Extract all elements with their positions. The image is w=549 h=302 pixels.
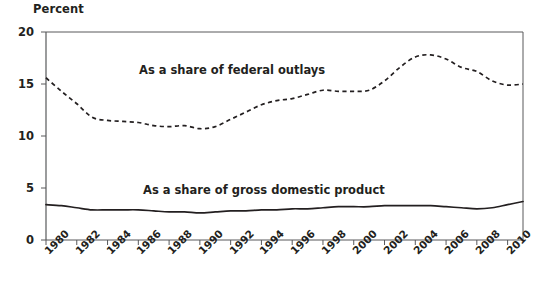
y-tick-label-10: 10 [12,129,34,143]
y-tick-label-15: 15 [12,77,34,91]
y-tick-label-5: 5 [12,181,34,195]
series-line-gdp-share [46,202,523,213]
series-annotation-federal-outlays: As a share of federal outlays [139,63,325,77]
y-tick-label-0: 0 [12,233,34,247]
y-tick-label-20: 20 [12,25,34,39]
chart-plot-area [0,0,549,302]
series-annotation-gdp-share: As a share of gross domestic product [143,183,385,197]
y-tick-marks [41,32,46,240]
chart-figure: Percent 05101520 19801982198419861988199… [0,0,549,302]
